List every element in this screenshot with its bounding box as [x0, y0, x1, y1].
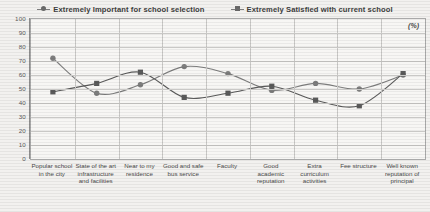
- y-axis-tick-80: 80: [19, 43, 26, 50]
- category-divider: [381, 19, 382, 159]
- y-axis-tick-0: 0: [22, 155, 26, 162]
- category-divider: [162, 19, 163, 159]
- gridline: [31, 33, 425, 34]
- data-point[interactable]: [138, 82, 143, 87]
- x-axis-label-5: Good academic reputation: [249, 160, 293, 210]
- gridline: [31, 61, 425, 62]
- x-axis-label-6: Extra curriculum activities: [293, 160, 337, 210]
- y-axis-tick-70: 70: [19, 57, 26, 64]
- x-axis-labels: Popular school in the cityState of the a…: [30, 160, 424, 210]
- legend-item-satisfied[interactable]: Extremely Satisfied with current school: [231, 5, 393, 14]
- x-axis-label-2: Near to my residence: [118, 160, 162, 210]
- gridline: [31, 47, 425, 48]
- data-point[interactable]: [313, 81, 318, 86]
- x-axis-label-7: Fee structure: [336, 160, 380, 210]
- data-point[interactable]: [94, 91, 99, 96]
- gridline: [31, 117, 425, 118]
- x-axis-label-3: Good and safe bus service: [161, 160, 205, 210]
- x-axis-label-1: State of the art infrastructure and faci…: [74, 160, 118, 210]
- y-axis-tick-60: 60: [19, 71, 26, 78]
- category-divider: [119, 19, 120, 159]
- category-divider: [250, 19, 251, 159]
- gridline: [31, 103, 425, 104]
- y-axis-tick-40: 40: [19, 99, 26, 106]
- square-marker-icon: [231, 9, 244, 10]
- chart-container: Extremely Important for school selection…: [0, 0, 430, 212]
- y-axis-tick-90: 90: [19, 29, 26, 36]
- diamond-marker-icon: [37, 9, 50, 10]
- category-divider: [206, 19, 207, 159]
- x-axis-label-8: Well known reputation of principal: [380, 160, 424, 210]
- gridline: [31, 145, 425, 146]
- gridline: [31, 75, 425, 76]
- legend-item-important[interactable]: Extremely Important for school selection: [37, 5, 204, 14]
- data-point[interactable]: [182, 64, 187, 69]
- data-point[interactable]: [182, 95, 187, 100]
- y-axis-labels: 1009080706050403020100: [0, 18, 28, 158]
- chart-legend: Extremely Important for school selection…: [0, 2, 430, 16]
- gridline: [31, 89, 425, 90]
- plot-area: (%): [30, 18, 426, 160]
- legend-label-important: Extremely Important for school selection: [53, 5, 204, 14]
- legend-label-satisfied: Extremely Satisfied with current school: [247, 5, 393, 14]
- y-axis-tick-10: 10: [19, 141, 26, 148]
- y-axis-tick-20: 20: [19, 127, 26, 134]
- category-divider: [337, 19, 338, 159]
- data-point[interactable]: [225, 91, 230, 96]
- x-axis-label-0: Popular school in the city: [30, 160, 74, 210]
- category-divider: [75, 19, 76, 159]
- data-point[interactable]: [94, 81, 99, 86]
- y-axis-tick-100: 100: [15, 15, 26, 22]
- y-axis-tick-30: 30: [19, 113, 26, 120]
- x-axis-label-4: Faculty: [205, 160, 249, 210]
- category-divider: [294, 19, 295, 159]
- gridline: [31, 131, 425, 132]
- y-axis-tick-50: 50: [19, 85, 26, 92]
